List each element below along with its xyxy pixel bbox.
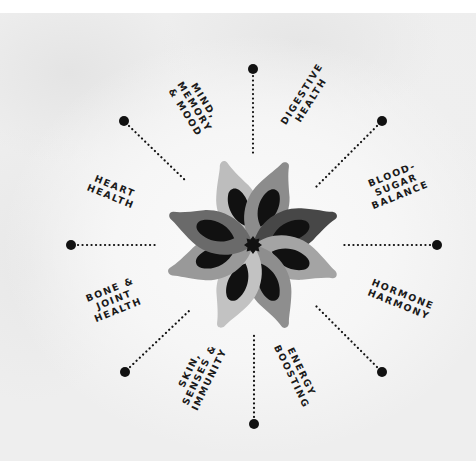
dot-se: [377, 367, 387, 377]
dot-n: [248, 64, 258, 74]
connector-se: [315, 305, 377, 367]
wellness-flower-diagram: [0, 0, 476, 461]
flower-center-star: [244, 236, 262, 254]
dot-sw: [120, 367, 130, 377]
connector-nw: [129, 126, 187, 182]
dot-w: [66, 240, 76, 250]
dot-e: [432, 240, 442, 250]
dot-s: [249, 419, 259, 429]
dot-ne: [377, 116, 387, 126]
connector-sw: [130, 311, 189, 367]
flower-icon: [162, 154, 344, 335]
dot-nw: [119, 116, 129, 126]
